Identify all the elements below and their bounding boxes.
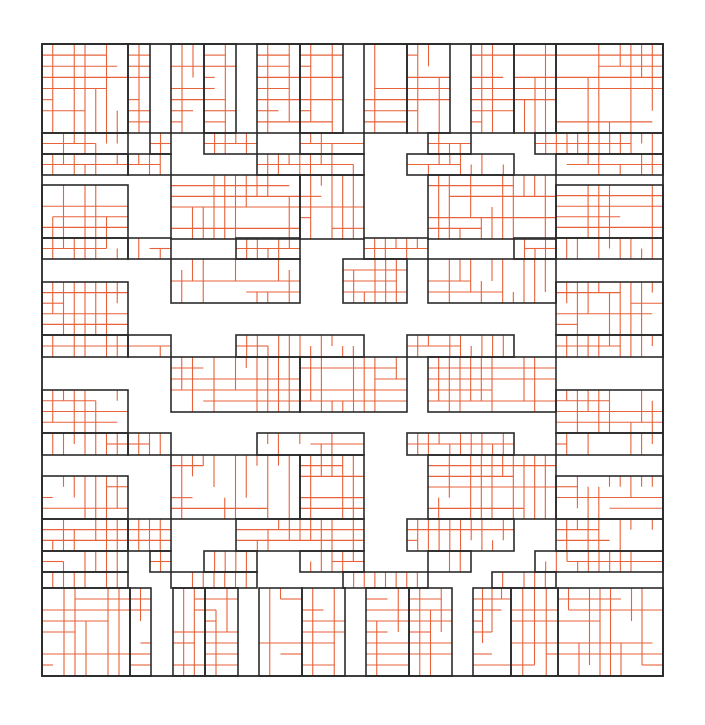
black-room-frames xyxy=(42,44,663,676)
outer-square-border xyxy=(42,44,663,676)
orange-subdivision-lines xyxy=(42,44,663,676)
maze-diagram xyxy=(0,0,705,725)
